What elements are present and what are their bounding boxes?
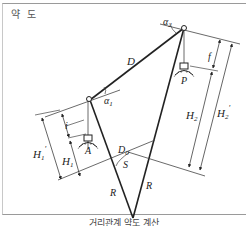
station-point-a [87, 97, 92, 102]
label-h1: H1 [61, 155, 73, 169]
diagram-caption: 거리관계 약도 계산 [0, 216, 248, 226]
label-alpha2: α2 [163, 16, 172, 29]
line-r-right [133, 28, 184, 218]
dim-f [213, 40, 220, 68]
surveying-diagram: α1 α2 D P A f i H1 H1′ H2 H2′ D0 S R R [0, 0, 248, 226]
label-a: A [84, 145, 92, 156]
sight-line-p [160, 24, 240, 44]
baseline-right [128, 152, 205, 176]
label-h1-prime: H1′ [32, 145, 46, 162]
label-h2-prime: H2′ [216, 104, 230, 121]
line-d [90, 28, 184, 100]
station-point-p [182, 26, 187, 31]
dim-h2-prime [200, 44, 232, 170]
label-r-right: R [145, 180, 152, 191]
label-s: S [123, 159, 128, 170]
label-r-left: R [109, 187, 116, 198]
label-d: D [126, 55, 135, 67]
dim-h1 [70, 141, 80, 176]
instrument-p-icon [180, 63, 188, 69]
label-p: P [180, 75, 187, 86]
label-alpha1: α1 [104, 95, 113, 108]
label-i: i [65, 120, 68, 131]
instrument-a-icon [84, 135, 92, 141]
label-f: f [208, 51, 212, 62]
label-h2: H2 [185, 109, 198, 123]
